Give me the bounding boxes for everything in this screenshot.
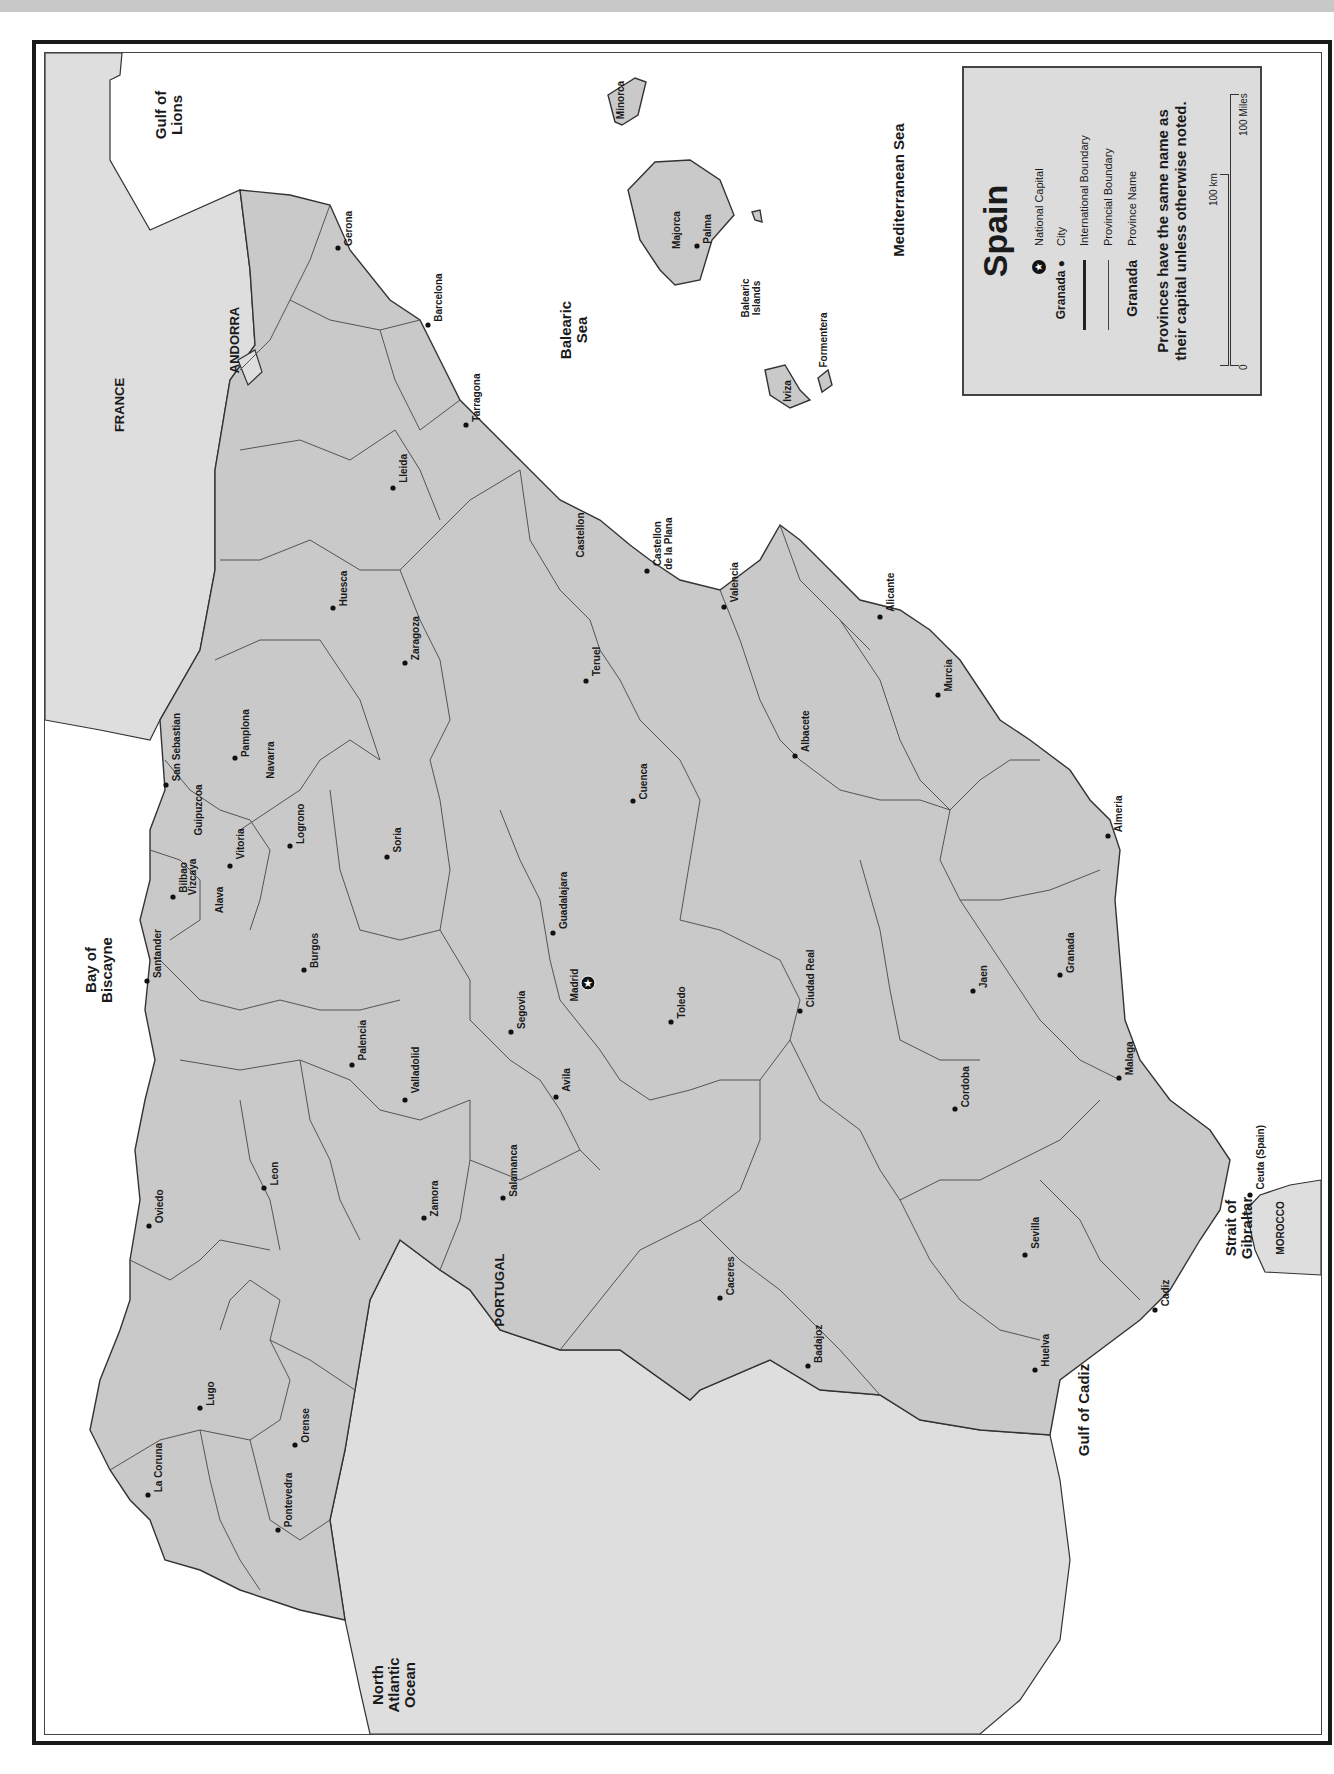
city-dot-icon [1105, 833, 1110, 838]
city-label: Toledo [676, 986, 687, 1018]
water-body-label: BalearicIslands [740, 278, 762, 317]
city-dot-icon [146, 1223, 151, 1228]
city-dot-icon [330, 605, 335, 610]
city-dot-icon [583, 678, 588, 683]
city-dot-icon [792, 753, 797, 758]
city-label: Malaga [1124, 1041, 1135, 1075]
city-label: Barcelona [433, 273, 444, 322]
water-body-label: Bay ofBiscayne [82, 937, 115, 1003]
city-label: Cuenca [638, 763, 649, 800]
city-dot-icon [163, 782, 168, 787]
province-label: Alava [214, 886, 225, 913]
international-boundary-line-icon [1083, 260, 1086, 330]
city-dot-icon [402, 660, 407, 665]
city-label: Lleida [398, 454, 409, 483]
city-dot-icon [292, 1442, 297, 1447]
city-label: Sevilla [1030, 1217, 1041, 1249]
city-label: Valladolid [410, 1047, 421, 1094]
city-label: Valencia [729, 562, 740, 602]
city-dot-icon [144, 978, 149, 983]
city-label: Cadiz [1160, 1280, 1171, 1307]
province-label: Guipuzcoa [193, 784, 204, 836]
province-label: Majorca [671, 211, 682, 249]
city-label: Bilbao [178, 862, 189, 893]
legend-row-city: Granada ● City [1054, 227, 1068, 366]
water-body-label: Gulf ofLions [152, 90, 185, 139]
city-label: Soria [392, 827, 403, 852]
legend-row-prov-boundary: Provincial Boundary [1102, 148, 1114, 366]
scale-bar: 0 100 km 100 Miles [1208, 86, 1248, 366]
city-dot-icon [1057, 972, 1062, 977]
city-dot-icon [335, 245, 340, 250]
provincial-boundary-line-icon [1108, 260, 1109, 330]
province-label: Castellon [575, 512, 586, 557]
city-label: Almeria [1113, 795, 1124, 832]
city-label: Salamanca [508, 1144, 519, 1197]
water-body-label: Mediterranean Sea [890, 123, 907, 257]
city-dot-icon [797, 1008, 802, 1013]
city-dot-icon [630, 798, 635, 803]
capital-label: Madrid [569, 969, 580, 1002]
city-label: Orense [300, 1408, 311, 1443]
city-label: Badajoz [813, 1325, 824, 1363]
city-label: Huelva [1040, 1334, 1051, 1367]
country-label: ANDORRA [227, 306, 242, 373]
city-dot-icon [232, 755, 237, 760]
country-label: PORTUGAL [492, 1253, 507, 1326]
city-dot-icon [805, 1363, 810, 1368]
city-dot-icon [1152, 1307, 1157, 1312]
city-dot-icon [1116, 1075, 1121, 1080]
city-dot-icon [877, 614, 882, 619]
city-label: Avila [561, 1068, 572, 1092]
city-label: Albacete [800, 710, 811, 752]
city-label: Castellonde la Plana [652, 517, 674, 570]
city-dot-icon [508, 1029, 513, 1034]
city-label: Palma [702, 214, 713, 244]
city-label: La Coruna [153, 1442, 164, 1492]
city-label: Burgos [309, 932, 320, 967]
city-label: Murcia [943, 659, 954, 692]
city-dot-icon [197, 1405, 202, 1410]
city-dot-icon [349, 1062, 354, 1067]
city-dot-icon [421, 1215, 426, 1220]
scale-km-bar [1220, 174, 1229, 366]
province-label: Navarra [265, 741, 276, 779]
city-label: Ceuta (Spain) [1255, 1125, 1266, 1189]
map-legend: Spain ★ National Capital Granada ● City … [962, 66, 1262, 396]
city-dot-icon [644, 568, 649, 573]
city-dot-icon [500, 1195, 505, 1200]
city-dot-icon [952, 1106, 957, 1111]
city-dot-icon [463, 422, 468, 427]
city-label: Gerona [343, 210, 354, 245]
city-label: Guadalajara [558, 871, 569, 929]
city-label: Cordoba [960, 1066, 971, 1108]
city-label: Lugo [205, 1381, 216, 1405]
city-dot-icon [1022, 1252, 1027, 1257]
city-label: Jaen [978, 965, 989, 988]
city-label: Segovia [516, 990, 527, 1029]
city-dot-icon [275, 1527, 280, 1532]
legend-row-intl-boundary: International Boundary [1078, 135, 1090, 366]
city-dot-icon [390, 485, 395, 490]
city-label: Palencia [357, 1019, 368, 1060]
city-dot-icon [170, 894, 175, 899]
formentera-island [818, 370, 832, 392]
city-dot-icon [227, 863, 232, 868]
city-label: Tarragona [471, 373, 482, 422]
city-dot-icon [425, 322, 430, 327]
city-dot-icon [935, 692, 940, 697]
city-label: Pamplona [240, 709, 251, 757]
city-label: Caceres [725, 1256, 736, 1295]
city-label: Granada [1065, 932, 1076, 973]
city-label: Ciudad Real [805, 949, 816, 1007]
city-label: Teruel [591, 647, 602, 676]
star-icon: ★ [583, 977, 593, 989]
legend-row-province-name: Granada Province Name [1124, 171, 1140, 366]
city-label: Leon [269, 1162, 280, 1186]
legend-note: Provinces have the same name as their ca… [1154, 66, 1190, 396]
water-body-label: Strait ofGibraltar [1222, 1197, 1255, 1260]
city-dot-icon [668, 1019, 673, 1024]
city-label: Santander [152, 929, 163, 978]
city-dot-icon [261, 1185, 266, 1190]
city-label: Huesca [338, 570, 349, 606]
